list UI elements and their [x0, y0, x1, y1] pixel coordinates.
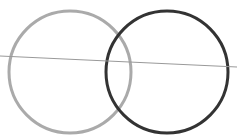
intersecting-line [0, 56, 237, 67]
right-circle [106, 11, 228, 133]
venn-diagram-canvas [0, 0, 237, 137]
left-circle [9, 11, 131, 133]
